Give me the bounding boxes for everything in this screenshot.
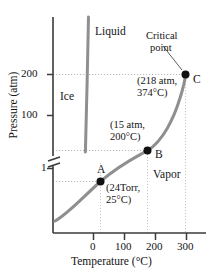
region-label-liquid: Liquid xyxy=(95,25,126,37)
y-tick-label-1: 1 xyxy=(41,162,47,174)
phase-diagram-figure: Pressure (atm) 200 100 1 0 100 200 300 T… xyxy=(0,0,212,273)
y-axis-title-wrapper: Pressure (atm) xyxy=(3,69,21,141)
data-point-c-value-line2: 374°C) xyxy=(137,87,167,98)
region-label-ice: Ice xyxy=(60,90,74,102)
x-axis-ticks xyxy=(94,233,187,240)
data-point-b-value-line2: 200°C) xyxy=(110,131,140,142)
x-tick-label-300: 300 xyxy=(177,241,194,253)
y-axis-ticks xyxy=(47,75,53,169)
y-axis-break-icon xyxy=(48,157,60,167)
y-tick-label-200: 200 xyxy=(21,68,38,80)
data-point-a-value-line1: (24Torr, xyxy=(106,182,140,193)
y-tick-label-100: 100 xyxy=(21,109,38,121)
x-axis-title: Temperature (°C) xyxy=(71,255,152,267)
data-point-b-label: B xyxy=(155,148,163,160)
data-point-a-label: A xyxy=(97,163,105,175)
data-point-c-value-line1: (218 atm, xyxy=(137,75,177,86)
x-tick-label-200: 200 xyxy=(146,241,163,253)
critical-point-label-line2: point xyxy=(150,42,172,53)
y-axis-title: Pressure (atm) xyxy=(7,72,19,139)
x-tick-label-100: 100 xyxy=(115,241,132,253)
data-point-b-marker xyxy=(144,147,152,155)
data-point-c-label: C xyxy=(193,73,201,85)
region-label-vapor: Vapor xyxy=(153,168,180,180)
critical-point-label-line1: Critical xyxy=(146,30,178,41)
x-tick-label-0: 0 xyxy=(90,241,96,253)
data-point-b-value-line1: (15 atm, xyxy=(110,119,145,130)
fusion-curve xyxy=(85,17,88,152)
data-point-a-marker xyxy=(97,178,105,186)
phase-diagram-plot xyxy=(0,0,212,273)
data-point-c-marker xyxy=(182,71,190,79)
data-point-a-value-line2: 25°C) xyxy=(106,194,131,205)
